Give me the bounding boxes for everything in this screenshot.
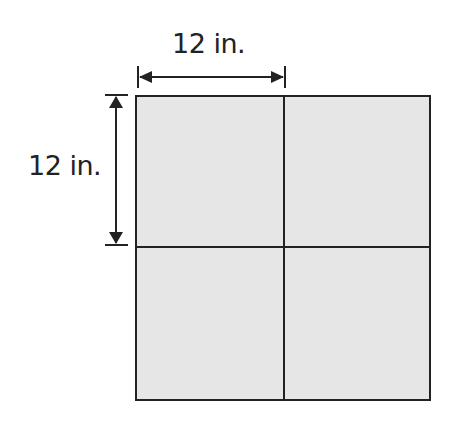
left-dimension-arrow <box>105 95 128 245</box>
top-dimension-arrow <box>138 66 285 88</box>
top-dimension-label: 12 in. <box>172 28 245 59</box>
square-diagram <box>0 0 457 424</box>
left-dimension-label: 12 in. <box>28 150 101 181</box>
